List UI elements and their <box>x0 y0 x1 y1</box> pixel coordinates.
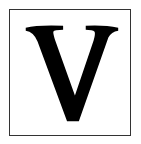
letter-card: V <box>9 9 131 136</box>
letter-v-glyph: V <box>10 10 130 135</box>
